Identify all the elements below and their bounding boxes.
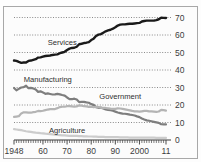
x-tick-label: 80: [86, 146, 96, 156]
y-tick-label: 30: [175, 83, 185, 93]
x-tick-label: 1948: [5, 146, 24, 156]
y-tick-label: 50: [175, 48, 185, 58]
y-tick-label: 20: [175, 100, 185, 110]
series-label-government: Government: [99, 92, 142, 101]
series-label-services: Services: [48, 38, 77, 47]
x-tick-label: 2000: [130, 146, 149, 156]
y-tick-label: 0: [175, 135, 180, 145]
line-chart: 010203040506070 194860708090200011 Servi…: [0, 0, 201, 162]
x-tick-label: 11: [162, 146, 171, 156]
y-tick-label: 70: [175, 13, 185, 23]
chart-figure: 010203040506070 194860708090200011 Servi…: [0, 0, 201, 162]
series-label-agriculture: Agriculture: [49, 126, 85, 135]
series-label-manufacturing: Manufacturing: [24, 75, 72, 84]
x-tick-label: 90: [111, 146, 121, 156]
x-tick-label: 70: [62, 146, 72, 156]
y-tick-label: 10: [175, 118, 185, 128]
y-tick-label: 60: [175, 30, 185, 40]
y-tick-label: 40: [175, 65, 185, 75]
x-tick-label: 60: [38, 146, 48, 156]
